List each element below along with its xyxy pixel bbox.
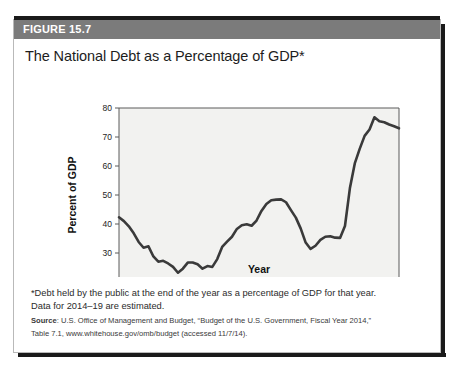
debt-gdp-line-chart: 20304050607080 1962196619701974197819821… xyxy=(14,67,442,277)
source-label: Source xyxy=(31,316,57,325)
x-axis-title: Year xyxy=(248,263,270,275)
figure-header-top-rule xyxy=(14,16,440,20)
y-tick-label: 80 xyxy=(103,103,113,113)
y-tick-label: 50 xyxy=(103,190,113,200)
figure-header-bar: FIGURE 15.7 xyxy=(14,20,440,39)
chart-canvas: 20304050607080 1962196619701974197819821… xyxy=(14,67,442,277)
figure-container: FIGURE 15.7 The National Debt as a Perce… xyxy=(13,19,441,353)
y-tick-label: 60 xyxy=(103,161,113,171)
source-line-1: Source: U.S. Office of Management and Bu… xyxy=(31,315,431,326)
y-tick-label: 30 xyxy=(103,248,113,258)
source-text: : U.S. Office of Management and Budget, … xyxy=(57,316,371,325)
footnote-block: *Debt held by the public at the end of t… xyxy=(31,287,431,339)
figure-number-label: FIGURE 15.7 xyxy=(23,23,91,35)
y-axis-title: Percent of GDP xyxy=(66,156,78,233)
source-line-2: Table 7.1, www.whitehouse.gov/omb/budget… xyxy=(31,328,431,339)
footnote-line-1: *Debt held by the public at the end of t… xyxy=(31,287,431,300)
y-tick-label: 70 xyxy=(103,132,113,142)
figure-shadow-bottom xyxy=(18,353,446,357)
y-tick-label: 40 xyxy=(103,219,113,229)
figure-title: The National Debt as a Percentage of GDP… xyxy=(25,48,305,64)
footnote-line-2: Data for 2014–19 are estimated. xyxy=(31,300,431,313)
plot-background xyxy=(119,108,399,277)
y-axis-ticks: 20304050607080 xyxy=(103,103,119,277)
